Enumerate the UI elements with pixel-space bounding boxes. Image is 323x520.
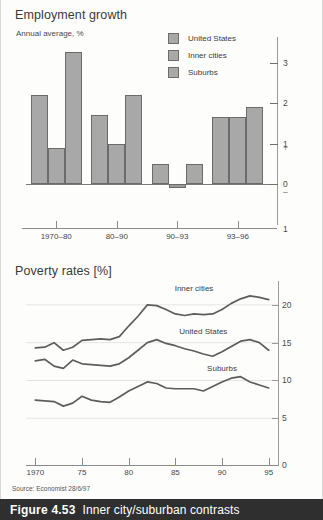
line-x-label-80: 80 xyxy=(124,468,133,477)
line-x-label-75: 75 xyxy=(78,468,87,477)
line-axis-label-15: 15 xyxy=(282,338,291,348)
line-x-tick-85 xyxy=(175,458,176,465)
line-value-axis xyxy=(278,281,279,466)
line-x-tick-75 xyxy=(82,458,83,465)
bar-chart-subtitle: Annual average, % xyxy=(16,29,84,38)
figure-title: Inner city/suburban contrasts xyxy=(83,503,240,517)
figure-page: Employment growth Annual average, % Unit… xyxy=(0,0,323,520)
bar-category-tick xyxy=(238,221,239,228)
line-axis-tick-10 xyxy=(272,380,279,381)
line-x-label-90: 90 xyxy=(218,468,227,477)
figure-caption-bar: Figure 4.53 Inner city/suburban contrast… xyxy=(0,499,323,520)
bar-axis-label-3: 3 xyxy=(283,58,288,68)
bar-axis-label-2: 2 xyxy=(283,98,288,108)
source-note: Source: Economist 28/6/97 xyxy=(12,485,90,492)
line-axis-tick-5 xyxy=(272,418,279,419)
line-x-tick-80 xyxy=(129,458,130,465)
bar-category-tick xyxy=(56,221,57,228)
bar-inner-cities-1970–80 xyxy=(48,148,65,184)
bar-value-axis xyxy=(277,37,278,225)
bar-inner-cities-93–96 xyxy=(229,117,246,184)
line-axis-label-5: 5 xyxy=(282,413,287,423)
bar-inner-cities-90–93 xyxy=(169,184,186,188)
line-series-inner-cities xyxy=(35,296,268,350)
bar-zero-line xyxy=(26,184,277,185)
line-x-label-1970: 1970 xyxy=(26,468,44,477)
line-axis-label-20: 20 xyxy=(282,300,291,310)
bar-category-label-80–90: 80–90 xyxy=(106,232,128,241)
line-series-suburbs xyxy=(35,377,268,406)
bar-category-tick xyxy=(117,221,118,228)
bar-united-states-93–96 xyxy=(212,117,229,184)
bar-category-tick xyxy=(177,221,178,228)
line-chart-title: Poverty rates [%] xyxy=(15,264,112,278)
axis-plus-sign: + xyxy=(283,143,288,153)
line-axis-tick-15 xyxy=(272,343,279,344)
line-x-tick-90 xyxy=(222,458,223,465)
bar-axis-tick-1 xyxy=(270,144,278,145)
bar-united-states-1970–80 xyxy=(31,95,48,184)
series-annotation-inner-cities: Inner cities xyxy=(175,283,214,292)
bar-axis-tick-2 xyxy=(270,103,278,104)
series-annotation-suburbs: Suburbs xyxy=(207,364,237,373)
line-axis-zero-label: 0 xyxy=(282,460,287,470)
line-x-label-85: 85 xyxy=(171,468,180,477)
bar-category-label-93–96: 93–96 xyxy=(227,232,249,241)
bar-axis-tick-0 xyxy=(270,184,278,185)
bar-united-states-90–93 xyxy=(152,164,169,184)
figure-number: Figure 4.53 xyxy=(10,503,76,517)
bar-suburbs-1970–80 xyxy=(65,52,82,184)
bar-suburbs-90–93 xyxy=(186,164,203,184)
bar-category-axis xyxy=(22,228,277,229)
employment-growth-chart: Employment growth Annual average, % Unit… xyxy=(0,0,323,253)
line-x-tick-95 xyxy=(269,458,270,465)
line-x-tick-1970 xyxy=(35,458,36,465)
bar-united-states-80–90 xyxy=(91,115,108,184)
bar-category-label-90–93: 90–93 xyxy=(166,232,188,241)
line-x-label-95: 95 xyxy=(264,468,273,477)
bar-chart-title: Employment growth xyxy=(15,8,127,22)
bar-category-label-1970–80: 1970–80 xyxy=(41,232,72,241)
line-plot-area xyxy=(26,286,278,456)
poverty-rates-chart: Poverty rates [%] 5101520 Inner citiesUn… xyxy=(0,253,323,483)
bar-inner-cities-80–90 xyxy=(108,144,125,185)
bar-axis-below-zero-label: 1 xyxy=(283,224,288,234)
series-annotation-united-states: United States xyxy=(179,326,227,335)
bar-axis-tick-3 xyxy=(270,63,278,64)
line-axis-tick-20 xyxy=(272,305,279,306)
bar-suburbs-93–96 xyxy=(246,107,263,184)
line-axis-label-10: 10 xyxy=(282,375,291,385)
line-category-axis xyxy=(26,465,278,466)
poverty-rates-svg xyxy=(26,286,278,456)
bar-suburbs-80–90 xyxy=(125,95,142,184)
axis-minus-sign: – xyxy=(283,187,288,197)
